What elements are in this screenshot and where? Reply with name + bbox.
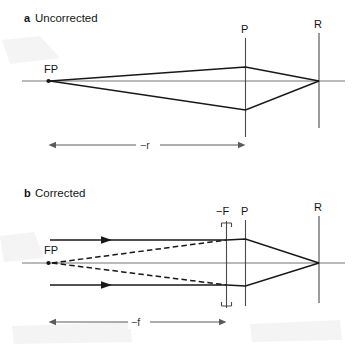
panel-a-title: Uncorrected xyxy=(35,12,98,24)
label-fp-b: FP xyxy=(44,244,58,256)
panel-b-letter: b xyxy=(24,187,31,199)
label-r-b: R xyxy=(314,201,322,213)
panel-b-title: Corrected xyxy=(35,187,86,199)
label-fp-a: FP xyxy=(44,63,58,75)
panel-a-letter: a xyxy=(24,12,31,24)
label-f-b: −F xyxy=(216,205,229,217)
focal-point-dot-b xyxy=(46,261,50,265)
optical-ray-diagram: a Uncorrected P R FP −r b Corrected xyxy=(0,0,352,344)
label-p-b: P xyxy=(241,205,248,217)
label-p-a: P xyxy=(241,23,248,35)
dimension-label-r: −r xyxy=(140,139,150,151)
label-r-a: R xyxy=(314,18,322,30)
focal-point-dot-a xyxy=(46,79,50,83)
dimension-label-f: −f xyxy=(131,316,140,328)
paper-artifacts xyxy=(0,0,352,344)
